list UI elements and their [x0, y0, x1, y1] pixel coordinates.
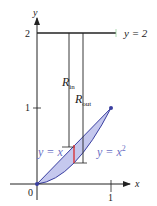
x-tick-label-1: 1: [108, 192, 113, 203]
y-axis-label: y: [32, 7, 38, 18]
y-tick-label-1: 1: [25, 102, 30, 113]
origin-label: 0: [28, 187, 33, 198]
r-in-label: Rin: [61, 75, 75, 91]
line-y-2-label: y = 2: [123, 27, 148, 39]
point-origin: [35, 182, 39, 186]
y-tick-label-2: 2: [25, 28, 30, 39]
x-axis-label: x: [134, 178, 140, 189]
curve-label-y-x: y = x: [37, 145, 63, 159]
washer-diagram: y x 0 1 1 2 y = 2 Rin Rout y = x y = x2: [0, 0, 157, 206]
curve-label-y-x2: y = x2: [96, 144, 126, 159]
point-1-1: [109, 106, 113, 110]
